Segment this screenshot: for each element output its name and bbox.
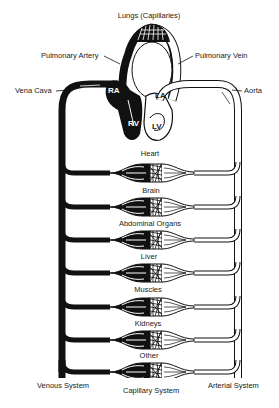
lungs-capillaries-label: Lungs (Capillaries) xyxy=(118,12,181,20)
vena-cava-label: Vena Cava xyxy=(15,87,52,95)
organ-label-liver: Liver xyxy=(141,253,157,261)
left-atrium-label: LA xyxy=(155,92,166,100)
organ-label-brain: Brain xyxy=(142,187,160,195)
organ-label-abdominal-organs: Abdominal Organs xyxy=(119,220,181,228)
organ-label-kidneys: Kidneys xyxy=(135,320,162,328)
arterial-system-label: Arterial System xyxy=(208,382,259,390)
left-ventricle-label: LV xyxy=(152,123,162,131)
pulmonary-artery-label: Pulmonary Artery xyxy=(41,52,99,60)
venous-system-label: Venous System xyxy=(37,382,89,390)
pulmonary-vein-label: Pulmonary Vein xyxy=(195,52,248,60)
circulation-drawing xyxy=(0,0,279,408)
organ-label-other: Other xyxy=(140,352,159,360)
capillary-system-label: Capillary System xyxy=(123,387,179,395)
organ-label-heart: Heart xyxy=(141,150,159,158)
organ-label-muscles: Muscles xyxy=(134,286,162,294)
right-atrium-label: RA xyxy=(108,87,120,95)
right-ventricle-label: RV xyxy=(128,120,139,128)
circulatory-system-diagram: Lungs (Capillaries) Pulmonary Artery Pul… xyxy=(0,0,279,408)
aorta-label: Aorta xyxy=(244,87,262,95)
